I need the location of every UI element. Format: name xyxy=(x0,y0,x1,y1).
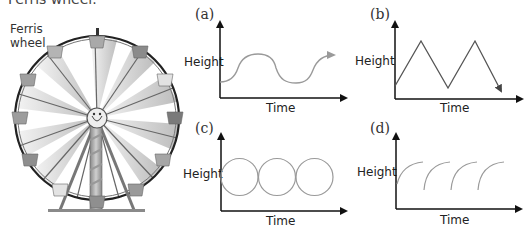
wheel-label-line1: Ferris xyxy=(10,22,46,36)
panel-a-xlabel: Time xyxy=(266,101,295,115)
panel-c-ylabel: Height xyxy=(183,167,223,181)
panel-c-graph xyxy=(221,134,346,211)
panel-d-ylabel: Height xyxy=(357,165,397,179)
panel-a-graph xyxy=(220,22,346,98)
panel-a-label: (a) xyxy=(195,6,214,22)
panel-d-label: (d) xyxy=(370,120,390,136)
panel-c-label: (c) xyxy=(195,120,214,136)
panel-b-ylabel: Height xyxy=(355,54,395,68)
panel-d-graph xyxy=(396,134,521,209)
ferris-wheel-label: Ferris wheel xyxy=(10,22,46,50)
panel-b-label: (b) xyxy=(370,6,390,22)
panel-d-xlabel: Time xyxy=(440,213,469,227)
panel-a-ylabel: Height xyxy=(184,55,224,69)
panel-b-xlabel: Time xyxy=(440,101,469,115)
wheel-label-line2: wheel xyxy=(10,36,46,50)
panel-c-xlabel: Time xyxy=(266,214,295,228)
panel-b-graph xyxy=(395,22,522,99)
